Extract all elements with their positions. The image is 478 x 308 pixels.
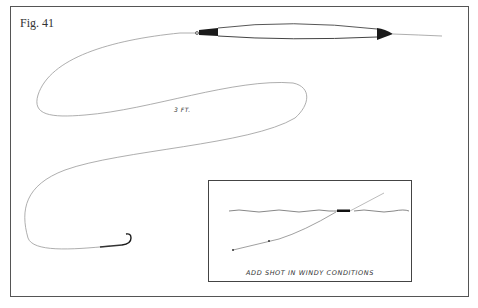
inset-caption: ADD SHOT IN WINDY CONDITIONS [209,269,411,277]
hook-icon [100,234,131,247]
inset-illustration [209,181,413,283]
split-shot-icon [268,240,270,242]
float-icon [337,210,350,213]
inset-diagram: ADD SHOT IN WINDY CONDITIONS [208,180,412,282]
submerged-line [233,212,336,250]
length-label: 3 FT. [174,106,191,113]
water-surface [229,210,409,212]
hook-end-icon [232,249,234,251]
float-icon [180,24,442,40]
